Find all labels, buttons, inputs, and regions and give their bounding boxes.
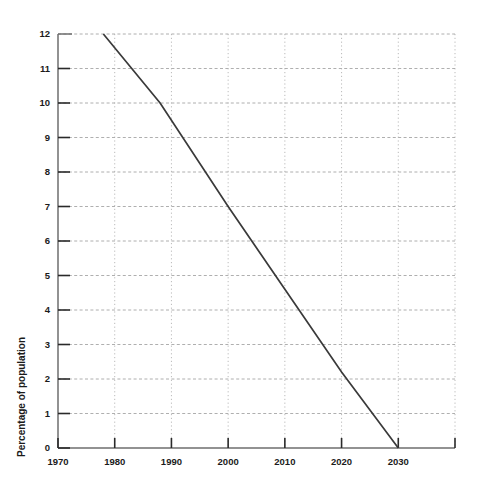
svg-text:7: 7 xyxy=(45,201,50,212)
chart-canvas: 0123456789101112 19701980199020002010202… xyxy=(0,0,482,489)
svg-text:6: 6 xyxy=(45,235,50,246)
svg-text:2000: 2000 xyxy=(218,456,239,467)
svg-text:4: 4 xyxy=(45,304,51,315)
svg-text:8: 8 xyxy=(45,166,50,177)
svg-text:1980: 1980 xyxy=(104,456,125,467)
line-chart: 0123456789101112 19701980199020002010202… xyxy=(0,0,482,489)
y-axis-title: Percentage of population xyxy=(16,337,27,457)
svg-text:2020: 2020 xyxy=(331,456,352,467)
svg-text:11: 11 xyxy=(40,63,51,74)
svg-text:1990: 1990 xyxy=(161,456,182,467)
svg-text:5: 5 xyxy=(45,270,51,281)
svg-text:3: 3 xyxy=(45,339,50,350)
svg-text:2010: 2010 xyxy=(274,456,295,467)
svg-text:10: 10 xyxy=(39,97,50,108)
svg-text:1: 1 xyxy=(45,408,51,419)
svg-text:2: 2 xyxy=(45,373,50,384)
svg-text:9: 9 xyxy=(45,132,50,143)
svg-text:12: 12 xyxy=(39,28,50,39)
svg-text:1970: 1970 xyxy=(47,456,68,467)
svg-text:0: 0 xyxy=(45,442,50,453)
svg-text:2030: 2030 xyxy=(388,456,409,467)
chart-background xyxy=(0,0,482,489)
